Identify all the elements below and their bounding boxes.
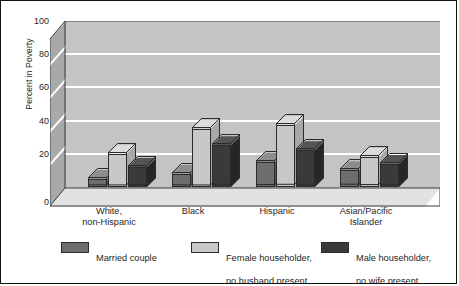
x-label-black: Black — [153, 206, 233, 217]
bar-2-2 — [296, 150, 315, 187]
x-label-black-line1: Black — [153, 206, 233, 217]
legend-label-male-householder-line2: no wife present — [356, 276, 418, 285]
chart-figure: Percent in Poverty 100 80 60 40 20 0 Whi… — [0, 0, 457, 284]
y-tick-60: 60 — [23, 83, 49, 92]
gridline-80 — [65, 53, 440, 55]
legend-label-married-couple: Married couple — [96, 241, 157, 264]
gridline-40 — [65, 120, 440, 122]
bar-outline — [296, 139, 326, 187]
legend-swatch-married-couple — [61, 242, 89, 253]
y-tick-0: 0 — [23, 198, 49, 207]
legend-label-married-couple-line1: Married couple — [96, 253, 157, 263]
plot-area — [50, 21, 440, 206]
y-tick-100: 100 — [23, 17, 49, 26]
plot-floor — [50, 188, 440, 207]
x-label-hispanic: Hispanic — [237, 206, 317, 217]
bar-0-2 — [128, 167, 147, 187]
y-tick-20: 20 — [23, 150, 49, 159]
x-label-white-line1: White, — [69, 206, 149, 217]
bar-0-1 — [108, 154, 127, 187]
legend-swatch-male-householder — [321, 242, 349, 253]
x-label-white: White, non-Hispanic — [69, 206, 149, 228]
bar-outline — [128, 156, 158, 187]
legend-item-male-householder[interactable]: Male householder, no wife present — [321, 241, 431, 284]
y-tick-80: 80 — [23, 50, 49, 59]
bar-2-1 — [276, 125, 295, 187]
bar-3-2 — [380, 164, 399, 187]
x-label-asian-line1: Asian/Pacific — [321, 206, 411, 217]
bar-outline — [212, 134, 242, 187]
legend-label-female-householder-line2: no husband present — [226, 276, 307, 285]
x-label-white-line2: non-Hispanic — [69, 217, 149, 228]
bar-3-0 — [340, 170, 359, 187]
legend-label-female-householder: Female householder, no husband present — [226, 241, 312, 284]
legend-swatch-female-householder — [191, 242, 219, 253]
bar-1-0 — [172, 174, 191, 187]
legend-item-married-couple[interactable]: Married couple — [61, 241, 157, 264]
legend-label-female-householder-line1: Female householder, — [226, 253, 312, 263]
legend-item-female-householder[interactable]: Female householder, no husband present — [191, 241, 312, 284]
bar-2-0 — [256, 162, 275, 187]
chart-legend: Married couple Female householder, no hu… — [1, 241, 457, 281]
bar-1-1 — [192, 129, 211, 187]
legend-label-male-householder-line1: Male householder, — [356, 253, 431, 263]
gridline-60 — [65, 86, 440, 88]
legend-label-male-householder: Male householder, no wife present — [356, 241, 431, 284]
x-label-hispanic-line1: Hispanic — [237, 206, 317, 217]
x-label-asian-line2: Islander — [321, 217, 411, 228]
bar-0-0 — [88, 179, 107, 187]
x-label-asian: Asian/Pacific Islander — [321, 206, 411, 228]
bar-1-2 — [212, 145, 231, 187]
bar-3-1 — [360, 157, 379, 187]
y-tick-40: 40 — [23, 117, 49, 126]
bar-outline — [380, 153, 410, 187]
